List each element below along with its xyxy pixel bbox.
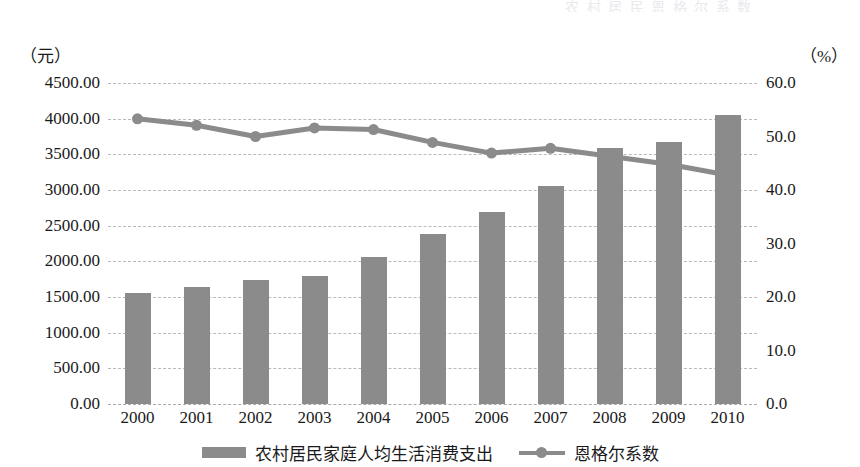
legend-item-bar: 农村居民家庭人均生活消费支出 [202, 440, 493, 465]
line-marker-2001 [191, 120, 202, 131]
legend-line-swatch-icon [519, 447, 565, 458]
right-axis-tick-label: 10.0 [766, 342, 836, 359]
line-marker-2008 [604, 151, 615, 162]
legend-line-label: 恩格尔系数 [574, 440, 659, 465]
line-marker-2002 [250, 131, 261, 142]
left-axis-unit-label: （元） [20, 42, 71, 67]
legend-bar-swatch-icon [202, 447, 246, 458]
left-axis-tick-label: 500.00 [4, 359, 100, 376]
right-axis-tick-label: 60.0 [766, 74, 836, 91]
line-marker-2007 [545, 143, 556, 154]
left-axis-tick-label: 4500.00 [4, 74, 100, 91]
line-marker-2005 [427, 137, 438, 148]
line-marker-2000 [132, 113, 143, 124]
chart-canvas: 农 村 居 民 恩 格 尔 系 数 （元） （%） 0.00500.001000… [0, 0, 860, 467]
plot-area [108, 83, 757, 404]
line-marker-2006 [486, 148, 497, 159]
chart-legend: 农村居民家庭人均生活消费支出 恩格尔系数 [0, 440, 860, 465]
right-axis-tick-label: 50.0 [766, 128, 836, 145]
left-axis-tick-label: 1500.00 [4, 288, 100, 305]
right-axis-tick-label: 0.0 [766, 395, 836, 412]
left-axis-tick-label: 1000.00 [4, 324, 100, 341]
legend-item-line: 恩格尔系数 [519, 440, 659, 465]
left-axis-tick-label: 4000.00 [4, 110, 100, 127]
right-axis-unit-label: （%） [800, 42, 848, 67]
line-marker-2010 [722, 170, 733, 181]
line-marker-2009 [663, 159, 674, 170]
gridline [108, 404, 757, 405]
left-axis-tick-label: 2500.00 [4, 217, 100, 234]
left-axis-tick-label: 3000.00 [4, 181, 100, 198]
left-axis-tick-label: 3500.00 [4, 145, 100, 162]
right-axis-tick-label: 40.0 [766, 181, 836, 198]
right-axis-tick-label: 20.0 [766, 288, 836, 305]
right-axis-tick-label: 30.0 [766, 235, 836, 252]
line-marker-2003 [309, 122, 320, 133]
x-axis-label-2010: 2010 [688, 408, 768, 427]
line-series [108, 83, 757, 404]
line-marker-2004 [368, 124, 379, 135]
left-axis-tick-label: 2000.00 [4, 252, 100, 269]
legend-bar-label: 农村居民家庭人均生活消费支出 [255, 440, 493, 465]
left-axis-tick-label: 0.00 [4, 395, 100, 412]
faded-header-text: 农 村 居 民 恩 格 尔 系 数 [565, 0, 800, 12]
